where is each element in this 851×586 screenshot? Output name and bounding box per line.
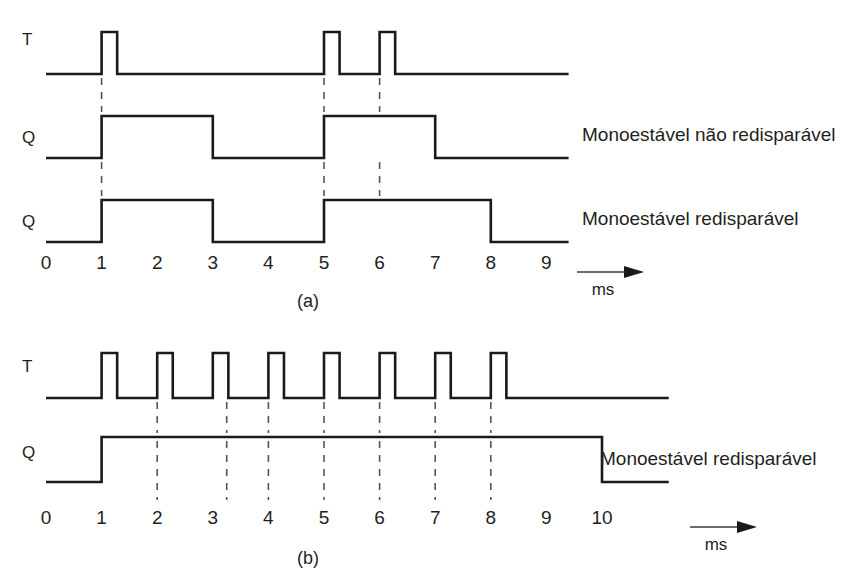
panel-b-signal-label-t: T: [22, 357, 33, 377]
waveform-b-Q-retriggerable: [46, 437, 669, 482]
tick-label-b-7: 7: [430, 507, 441, 529]
panel-a-signal-label-q-retriggerable: Q: [22, 212, 35, 232]
panel-a-waveforms: [46, 32, 569, 242]
tick-label-a-7: 7: [430, 252, 441, 274]
waveform-a-Q-retriggerable: [46, 200, 569, 242]
panel-b-signal-label-q: Q: [22, 443, 35, 463]
panel-b-guide-lines: [157, 402, 491, 500]
tick-label-b-5: 5: [319, 507, 330, 529]
tick-label-b-0: 0: [41, 507, 52, 529]
waveform-b-T: [46, 353, 669, 398]
tick-label-a-2: 2: [152, 252, 163, 274]
tick-label-a-9: 9: [541, 252, 552, 274]
panel-b-caption: (b): [297, 548, 319, 569]
tick-label-b-4: 4: [263, 507, 274, 529]
waveform-canvas: [0, 0, 851, 586]
tick-label-b-2: 2: [152, 507, 163, 529]
tick-label-b-10: 10: [591, 507, 612, 529]
panel-a-annotation-retriggerable: Monoestável redisparável: [582, 208, 799, 230]
tick-label-b-9: 9: [541, 507, 552, 529]
waveform-a-Q-non-retriggerable: [46, 116, 569, 158]
tick-label-a-1: 1: [96, 252, 107, 274]
panel-b-axis-arrow: [690, 521, 757, 533]
panel-b-unit-label: ms: [705, 535, 728, 555]
tick-label-a-8: 8: [486, 252, 497, 274]
tick-label-b-3: 3: [208, 507, 219, 529]
panel-a-axis-arrow: [577, 266, 644, 278]
tick-label-a-0: 0: [41, 252, 52, 274]
tick-label-a-6: 6: [374, 252, 385, 274]
tick-label-b-6: 6: [374, 507, 385, 529]
tick-label-a-4: 4: [263, 252, 274, 274]
panel-a-annotation-non-retriggerable: Monoestável não redisparável: [582, 124, 836, 146]
tick-label-a-3: 3: [208, 252, 219, 274]
tick-label-b-8: 8: [486, 507, 497, 529]
panel-b-waveforms: [46, 353, 669, 482]
panel-a-caption: (a): [297, 291, 319, 312]
tick-label-b-1: 1: [96, 507, 107, 529]
panel-a-signal-label-t: T: [22, 30, 33, 50]
panel-a-signal-label-q-non-retriggerable: Q: [22, 128, 35, 148]
waveform-a-T: [46, 32, 569, 74]
tick-label-a-5: 5: [319, 252, 330, 274]
timing-diagram-figure: T Q Q Monoestável não redisparável Monoe…: [0, 0, 851, 586]
panel-a-guide-lines: [102, 78, 380, 196]
panel-a-unit-label: ms: [592, 280, 615, 300]
panel-b-annotation-retriggerable: Monoestável redisparável: [600, 448, 817, 470]
